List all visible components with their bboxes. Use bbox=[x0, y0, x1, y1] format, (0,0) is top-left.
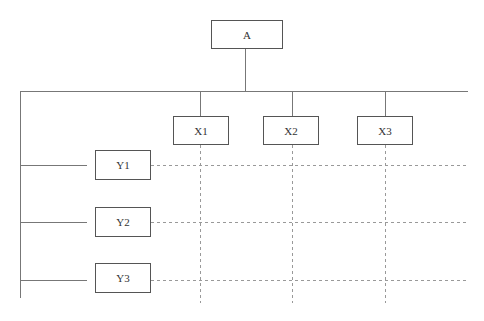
column-node-label: X2 bbox=[284, 125, 297, 137]
root-node-label: A bbox=[243, 29, 251, 41]
row-node-label: Y1 bbox=[116, 159, 129, 171]
row-node-label: Y3 bbox=[116, 272, 129, 284]
row-node-y1: Y1 bbox=[95, 150, 151, 180]
row-node-y2: Y2 bbox=[95, 207, 151, 237]
column-node-x2: X2 bbox=[263, 116, 319, 145]
column-node-label: X3 bbox=[378, 125, 391, 137]
column-node-label: X1 bbox=[194, 125, 207, 137]
row-node-label: Y2 bbox=[116, 216, 129, 228]
column-node-x3: X3 bbox=[357, 116, 413, 145]
row-node-y3: Y3 bbox=[95, 263, 151, 293]
root-node-a: A bbox=[211, 20, 283, 49]
column-node-x1: X1 bbox=[173, 116, 229, 145]
